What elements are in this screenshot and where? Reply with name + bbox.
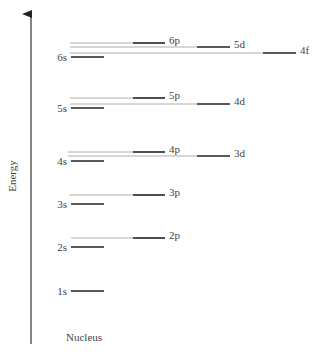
orbital-2p: 2p xyxy=(71,229,181,241)
orbital-label: 4p xyxy=(169,143,181,155)
orbital-4s: 4s xyxy=(57,155,104,167)
nucleus-label: Nucleus xyxy=(66,331,102,343)
orbital-label: 2p xyxy=(169,229,181,241)
orbital-2s: 2s xyxy=(57,241,104,253)
orbital-label: 4f xyxy=(300,44,310,56)
orbital-label: 3d xyxy=(234,147,246,159)
orbital-label: 1s xyxy=(57,285,67,297)
orbital-label: 5s xyxy=(57,102,67,114)
orbital-4p: 4p xyxy=(68,143,181,155)
orbital-label: 5p xyxy=(169,89,181,101)
orbital-3d: 3d xyxy=(68,147,246,159)
orbital-label: 5d xyxy=(234,38,246,50)
orbital-label: 3p xyxy=(169,186,181,198)
orbital-label: 4d xyxy=(234,95,246,107)
orbital-5d: 5d xyxy=(70,38,246,50)
orbital-label: 6p xyxy=(169,34,181,46)
orbital-3p: 3p xyxy=(69,186,181,198)
energy-level-diagram: Energy Nucleus 1s2s2p3s3p4s3d4p5s4d5p6s4… xyxy=(0,0,324,359)
energy-axis-label: Energy xyxy=(6,160,18,192)
orbital-label: 4s xyxy=(57,155,67,167)
orbital-3s: 3s xyxy=(57,198,104,210)
orbital-label: 6s xyxy=(57,51,67,63)
orbital-4f: 4f xyxy=(70,44,310,56)
orbital-6p: 6p xyxy=(70,34,181,46)
orbital-label: 2s xyxy=(57,241,67,253)
orbital-5p: 5p xyxy=(70,89,181,101)
orbital-1s: 1s xyxy=(57,285,104,297)
orbital-label: 3s xyxy=(57,198,67,210)
orbital-levels: 1s2s2p3s3p4s3d4p5s4d5p6s4f5d6p xyxy=(57,34,309,297)
orbital-4d: 4d xyxy=(70,95,246,107)
